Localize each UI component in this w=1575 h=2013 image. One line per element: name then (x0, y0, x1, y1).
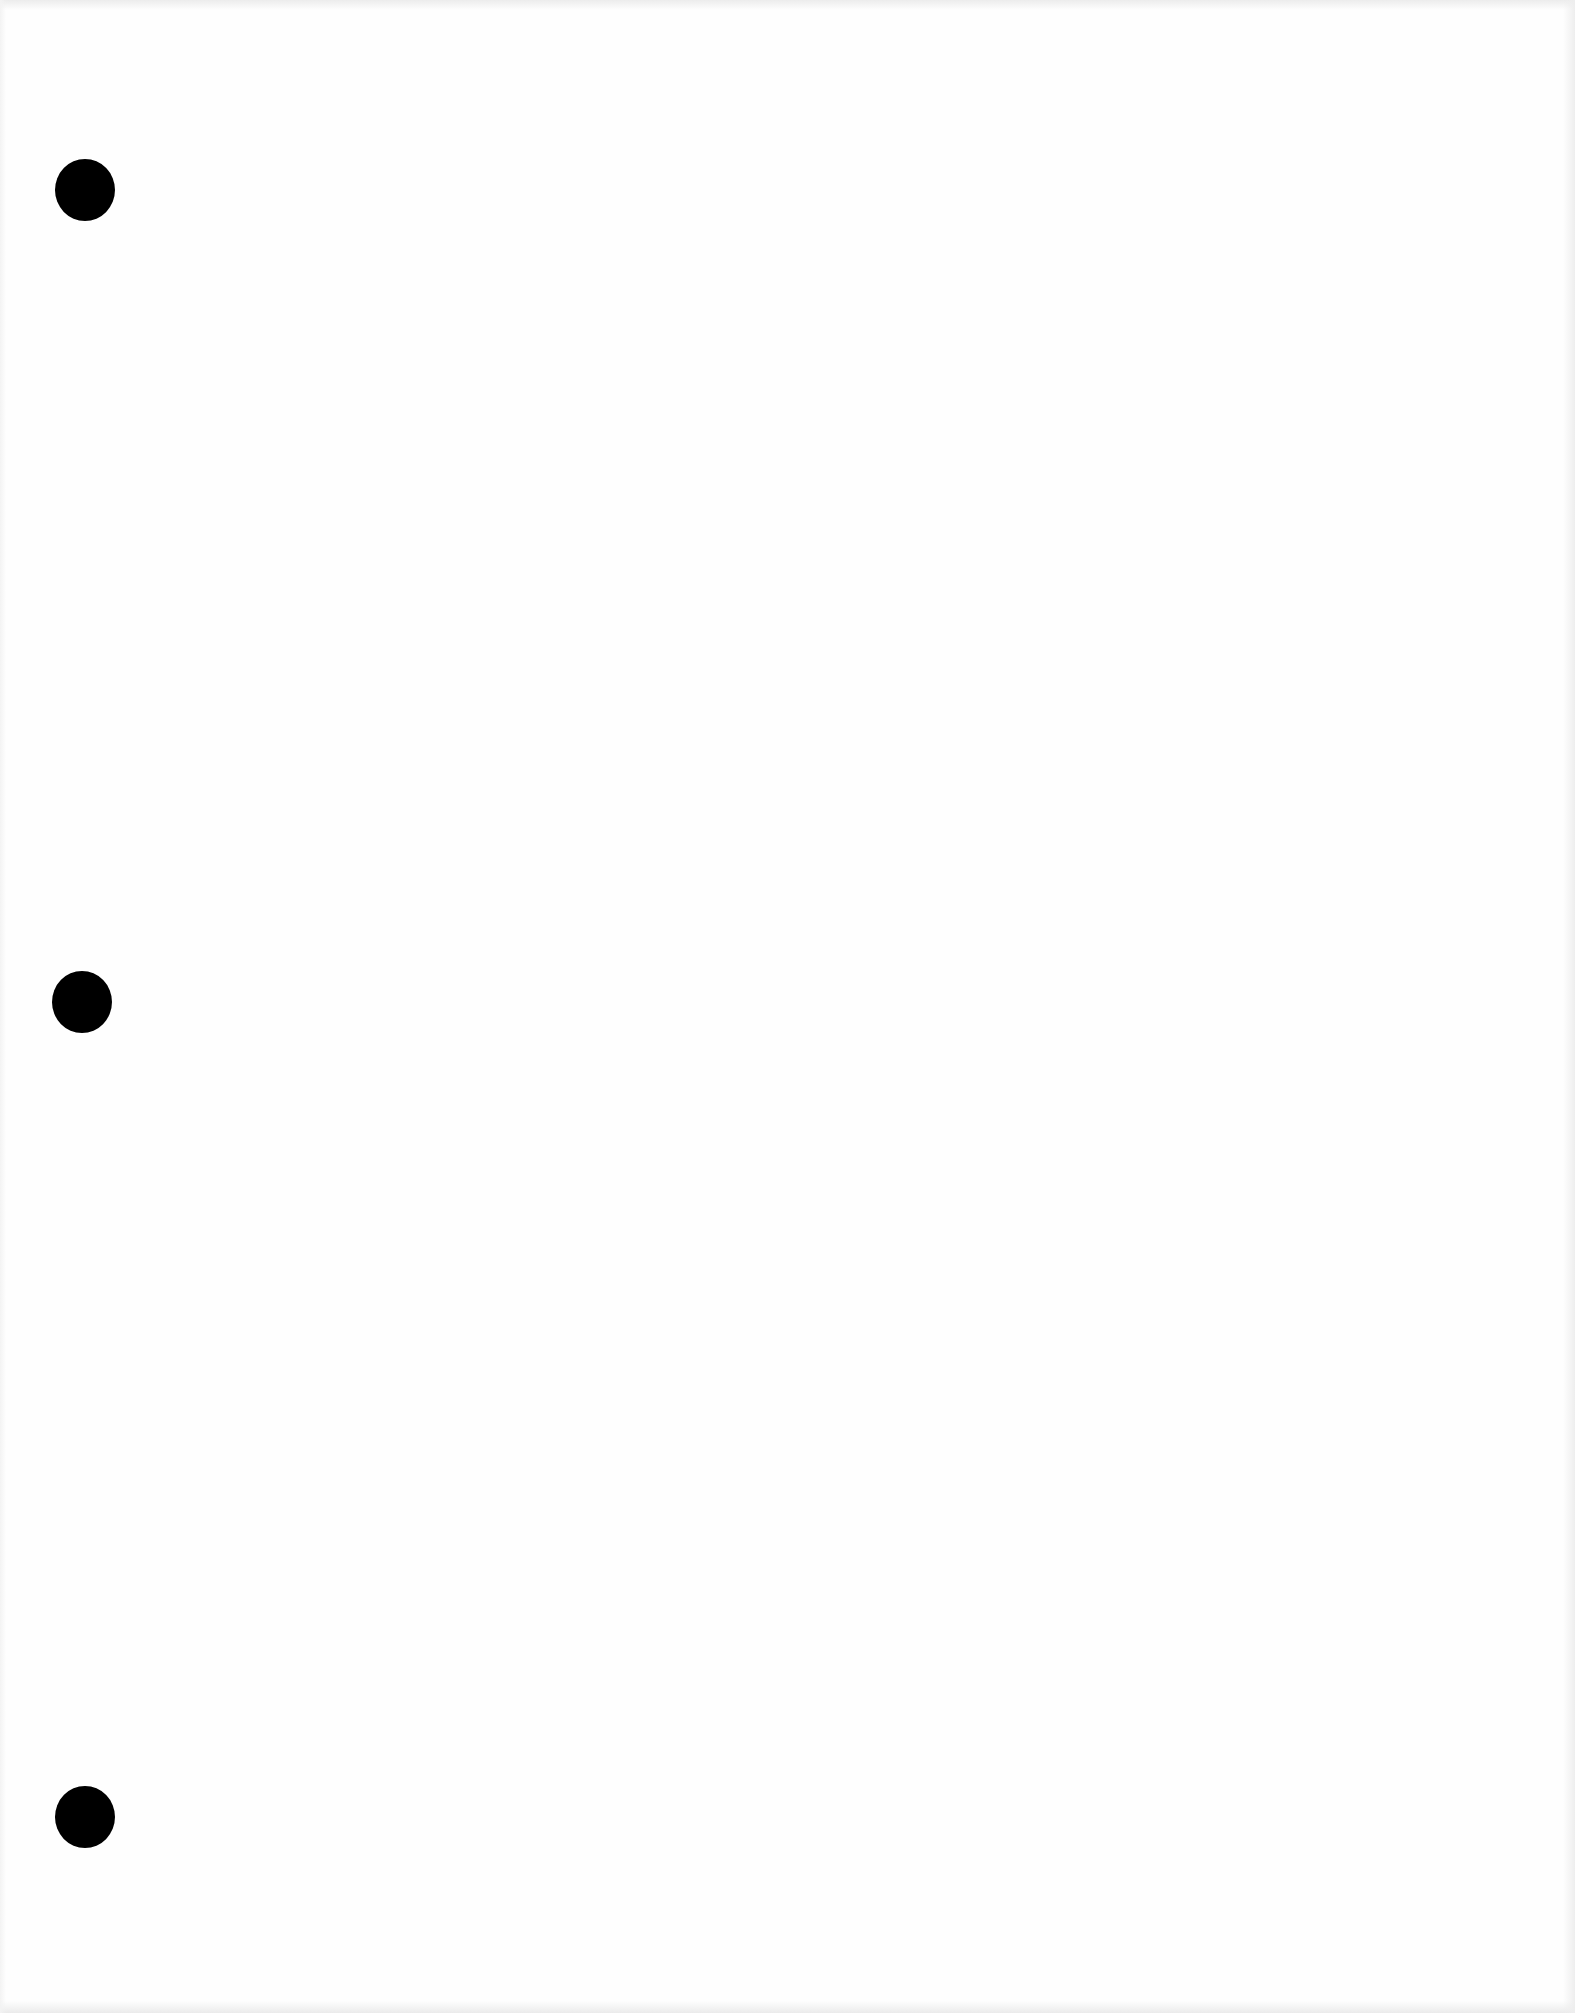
blank-scanned-page (0, 0, 1575, 2013)
scan-edge-shadow-right (1563, 0, 1575, 2013)
punch-hole-middle (52, 971, 112, 1033)
punch-hole-top (55, 159, 115, 221)
scan-edge-shadow-top (0, 0, 1575, 10)
scan-edge-shadow-left (0, 0, 6, 2013)
punch-hole-bottom (55, 1786, 115, 1848)
scan-edge-shadow-bottom (0, 2001, 1575, 2013)
